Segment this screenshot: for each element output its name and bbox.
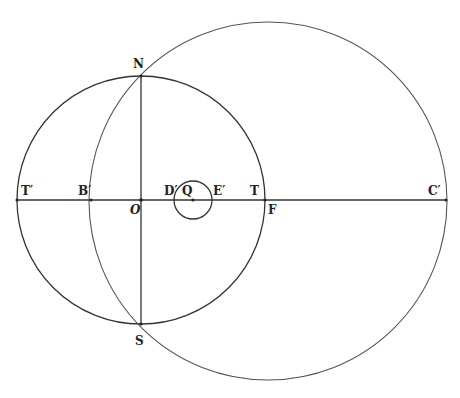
label-Q: Q bbox=[182, 184, 192, 198]
point-S bbox=[139, 322, 142, 325]
label-T: T bbox=[250, 184, 259, 198]
point-N bbox=[139, 74, 142, 77]
label-N: N bbox=[133, 57, 144, 71]
label-D-prime: D′ bbox=[164, 184, 178, 198]
point-O bbox=[139, 198, 143, 202]
point-F bbox=[263, 198, 266, 201]
geometry-diagram: N S T′ B′ O D′ Q E′ T F C′ bbox=[0, 0, 460, 398]
label-T-prime: T′ bbox=[21, 184, 33, 198]
point-Q bbox=[191, 198, 194, 201]
label-E-prime: E′ bbox=[213, 184, 225, 198]
point-C-prime bbox=[445, 199, 448, 202]
label-C-prime: C′ bbox=[428, 184, 441, 198]
point-T-prime bbox=[16, 199, 19, 202]
label-B-prime: B′ bbox=[78, 184, 91, 198]
label-S: S bbox=[135, 334, 144, 348]
label-O: O bbox=[130, 203, 141, 217]
label-F: F bbox=[268, 203, 277, 217]
point-B-prime bbox=[90, 199, 93, 202]
